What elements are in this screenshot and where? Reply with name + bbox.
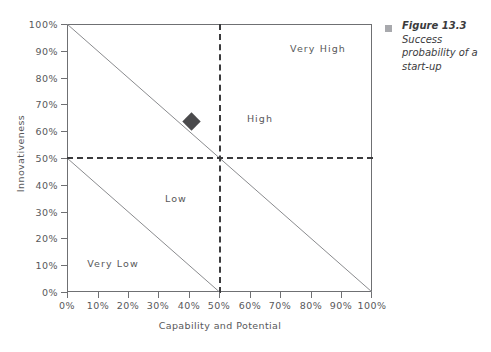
square-bullet-icon (385, 25, 392, 32)
x-tick-80 (311, 292, 312, 298)
y-tick-10 (61, 265, 67, 266)
x-axis-title: Capability and Potential (120, 320, 320, 331)
midline-vertical-dashed (219, 24, 221, 293)
region-label-very-high: Very High (283, 43, 353, 54)
x-tick-70 (280, 292, 281, 298)
x-tick-0 (67, 292, 68, 298)
region-label-low: Low (147, 193, 205, 204)
y-tick-20 (61, 238, 67, 239)
y-tick-label-100: 100% (18, 19, 58, 30)
x-tick-50 (219, 292, 220, 298)
region-label-high: High (231, 113, 289, 124)
y-tick-label-20: 20% (18, 233, 58, 244)
x-tick-90 (341, 292, 342, 298)
lower-diagonal-line (67, 158, 220, 292)
y-tick-label-80: 80% (18, 73, 58, 84)
y-tick-label-10: 10% (18, 260, 58, 271)
figure-page: 100% 90% 80% 70% 60% 50% 40% 30% 20% 10%… (0, 0, 491, 352)
x-tick-30 (158, 292, 159, 298)
y-tick-label-90: 90% (18, 46, 58, 57)
y-tick-90 (61, 51, 67, 52)
y-tick-50 (61, 158, 67, 159)
x-tick-10 (98, 292, 99, 298)
y-tick-30 (61, 212, 67, 213)
y-tick-80 (61, 78, 67, 79)
y-tick-40 (61, 185, 67, 186)
caption-title: Figure 13.3 (402, 19, 490, 33)
x-tick-label-100: 100% (350, 300, 394, 311)
caption-subtitle: Success probability of a start-up (402, 33, 490, 74)
y-tick-100 (61, 24, 67, 25)
y-tick-70 (61, 104, 67, 105)
y-tick-label-0: 0% (18, 287, 58, 298)
x-tick-40 (189, 292, 190, 298)
y-tick-60 (61, 131, 67, 132)
x-tick-60 (250, 292, 251, 298)
y-axis-title: Innovativeness (15, 94, 26, 214)
caption-text: Figure 13.3 Success probability of a sta… (402, 19, 490, 73)
region-label-very-low: Very Low (78, 258, 148, 269)
x-tick-20 (128, 292, 129, 298)
x-tick-100 (371, 292, 372, 298)
